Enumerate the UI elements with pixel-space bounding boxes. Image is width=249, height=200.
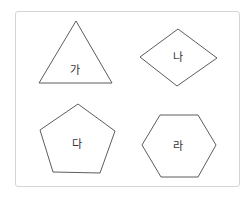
- label-ra: 라: [173, 140, 183, 153]
- shapes-diagram: 가 나 다 라: [0, 0, 249, 200]
- shape-hexagon: 라: [142, 115, 216, 177]
- shape-rhombus: 나: [140, 29, 217, 86]
- label-na: 나: [173, 51, 183, 64]
- shape-pentagon: 다: [40, 104, 115, 173]
- shape-triangle: 가: [39, 21, 112, 83]
- label-ga: 가: [70, 64, 80, 77]
- label-da: 다: [72, 138, 82, 151]
